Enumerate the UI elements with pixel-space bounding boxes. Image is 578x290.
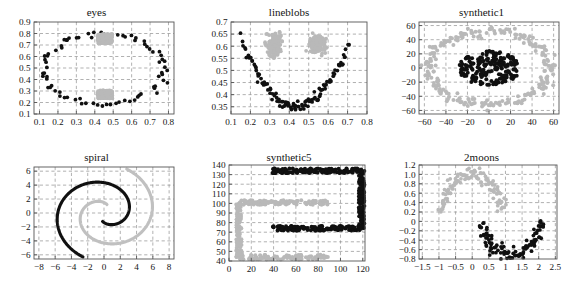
svg-text:0.4: 0.4 (404, 198, 416, 208)
svg-text:0.2: 0.2 (245, 117, 257, 127)
svg-text:−60: −60 (401, 106, 416, 116)
clustering-datasets-figure: eyes 0.10.20.30.40.50.60.70.80.10.20.30.… (0, 0, 578, 290)
series-spiral-spiral-gray (80, 169, 152, 244)
svg-text:0: 0 (411, 63, 416, 73)
svg-text:0.9: 0.9 (19, 17, 31, 27)
series-spiral-spiral-dark (57, 182, 129, 257)
svg-text:0.1: 0.1 (225, 117, 237, 127)
svg-text:0.3: 0.3 (19, 86, 31, 96)
svg-text:−2: −2 (21, 222, 31, 232)
chart-svg-spiral: −8−6−4−202468−6−4−20246 (0, 145, 188, 281)
svg-text:8: 8 (167, 262, 172, 272)
svg-text:120: 120 (356, 264, 370, 274)
svg-text:100: 100 (334, 264, 348, 274)
svg-text:2: 2 (26, 194, 31, 204)
chart-svg-2moons: −1.5−1−0.500.511.522.5−0.8−0.6−0.4−0.200… (385, 145, 571, 281)
svg-text:0.6: 0.6 (216, 42, 228, 52)
svg-text:0.8: 0.8 (163, 117, 175, 127)
svg-text:0.4: 0.4 (284, 117, 296, 127)
svg-text:20: 20 (506, 117, 516, 127)
svg-text:20: 20 (406, 49, 416, 59)
svg-text:0.6: 0.6 (19, 52, 31, 62)
svg-text:110: 110 (212, 189, 226, 199)
panel-eyes: eyes 0.10.20.30.40.50.60.70.80.10.20.30.… (0, 0, 193, 145)
svg-text:−4: −4 (67, 262, 77, 272)
svg-text:−40: −40 (439, 117, 454, 127)
svg-text:−1: −1 (434, 262, 444, 272)
svg-text:1: 1 (503, 262, 508, 272)
svg-text:0.7: 0.7 (342, 117, 354, 127)
svg-text:50: 50 (216, 247, 226, 257)
svg-text:0.8: 0.8 (361, 117, 373, 127)
svg-text:−1.5: −1.5 (414, 262, 431, 272)
svg-text:−6: −6 (21, 250, 31, 260)
series-synthetic1-inner-blob (458, 49, 519, 87)
svg-text:70: 70 (216, 228, 226, 238)
svg-text:0.5: 0.5 (19, 63, 31, 73)
svg-text:0: 0 (26, 208, 31, 218)
svg-text:−8: −8 (34, 262, 44, 272)
svg-text:−0.2: −0.2 (399, 226, 416, 236)
plot-area-spiral: −8−6−4−202468−6−4−20246 (0, 145, 188, 281)
svg-text:0.3: 0.3 (71, 117, 83, 127)
chart-svg-synthetic1: −60−40−200204060−60−40−200204060 (385, 0, 573, 136)
svg-text:0.8: 0.8 (19, 29, 31, 39)
svg-text:0.8: 0.8 (404, 179, 416, 189)
svg-text:2.5: 2.5 (550, 262, 562, 272)
plot-area-lineblobs: 0.10.20.30.40.50.60.70.80.350.40.450.50.… (193, 0, 381, 136)
axes-2moons: −1.5−1−0.500.511.522.5−0.8−0.6−0.4−0.200… (399, 160, 562, 272)
svg-text:40: 40 (527, 117, 537, 127)
svg-text:40: 40 (269, 264, 279, 274)
svg-text:0.5: 0.5 (483, 262, 495, 272)
series-2moons-moon-lower (478, 219, 546, 261)
svg-text:60: 60 (549, 117, 559, 127)
panel-spiral: spiral −8−6−4−202468−6−4−20246 (0, 145, 193, 290)
svg-text:60: 60 (406, 21, 416, 31)
plot-area-2moons: −1.5−1−0.500.511.522.5−0.8−0.6−0.4−0.200… (385, 145, 571, 281)
svg-text:90: 90 (216, 208, 226, 218)
svg-text:1.2: 1.2 (404, 160, 416, 170)
svg-text:−4: −4 (21, 236, 31, 246)
svg-text:40: 40 (216, 256, 226, 266)
svg-text:−40: −40 (401, 92, 416, 102)
svg-text:−0.8: −0.8 (399, 254, 416, 264)
series-synthetic1-outer-ring (419, 25, 557, 112)
svg-text:0.1: 0.1 (34, 117, 46, 127)
svg-text:−0.4: −0.4 (399, 236, 416, 246)
svg-text:0.2: 0.2 (52, 117, 64, 127)
panel-synthetic1: synthetic1 −60−40−200204060−60−40−200204… (385, 0, 578, 145)
svg-text:0: 0 (227, 264, 232, 274)
panel-synthetic5: synthetic5 02040608010012040506070809010… (193, 145, 385, 290)
svg-text:0.35: 0.35 (211, 102, 227, 112)
svg-text:0: 0 (487, 117, 492, 127)
plot-area-eyes: 0.10.20.30.40.50.60.70.80.10.20.30.40.50… (0, 0, 188, 136)
svg-text:1.5: 1.5 (516, 262, 528, 272)
svg-text:0.5: 0.5 (107, 117, 119, 127)
svg-text:0.6: 0.6 (404, 189, 416, 199)
svg-text:0.5: 0.5 (303, 117, 315, 127)
svg-text:0.1: 0.1 (19, 109, 31, 119)
svg-text:0.7: 0.7 (216, 17, 228, 27)
svg-text:80: 80 (216, 218, 226, 228)
svg-text:0.4: 0.4 (89, 117, 101, 127)
panel-2moons: 2moons −1.5−1−0.500.511.522.5−0.8−0.6−0.… (385, 145, 578, 290)
svg-text:−2: −2 (83, 262, 93, 272)
svg-text:0.5: 0.5 (216, 66, 228, 76)
svg-text:0.2: 0.2 (19, 98, 31, 108)
series-eyes-eye-upper (96, 32, 114, 45)
svg-text:60: 60 (216, 237, 226, 247)
svg-text:0: 0 (102, 262, 107, 272)
svg-text:6: 6 (26, 166, 31, 176)
svg-text:2: 2 (536, 262, 541, 272)
svg-text:0.45: 0.45 (211, 78, 227, 88)
svg-text:0.3: 0.3 (264, 117, 276, 127)
plot-area-synthetic5: 0204060801001204050607080901001101201301… (193, 145, 379, 283)
svg-text:0.4: 0.4 (19, 75, 31, 85)
svg-text:−60: −60 (417, 117, 432, 127)
svg-text:0.6: 0.6 (126, 117, 138, 127)
series-lineblobs-blob-left (263, 30, 284, 60)
svg-text:4: 4 (134, 262, 139, 272)
svg-text:130: 130 (212, 170, 226, 180)
svg-text:−20: −20 (401, 77, 416, 87)
svg-text:0.6: 0.6 (322, 117, 334, 127)
